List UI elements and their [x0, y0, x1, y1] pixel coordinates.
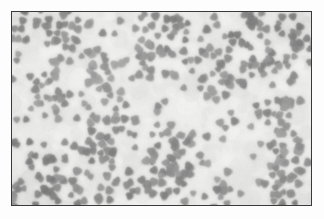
micrograph-image [12, 12, 311, 205]
micrograph-figure-container [0, 0, 324, 219]
micrograph-frame [11, 11, 312, 206]
